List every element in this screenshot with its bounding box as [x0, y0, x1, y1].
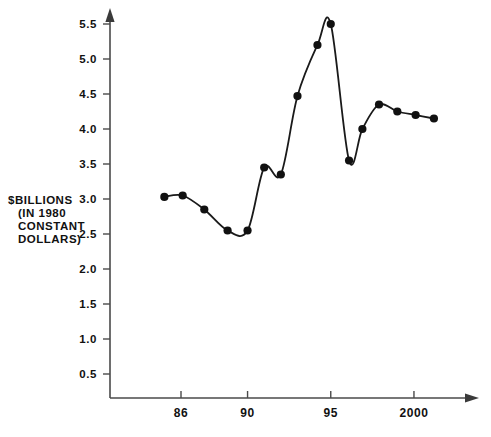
- data-point: [313, 41, 321, 49]
- data-point: [327, 20, 335, 28]
- data-series-line: [164, 17, 434, 236]
- data-point: [375, 100, 383, 108]
- data-point: [200, 205, 208, 213]
- data-series-points: [160, 20, 438, 235]
- y-axis-ticks: [103, 24, 110, 374]
- data-point: [260, 163, 268, 171]
- y-axis-tick-label-6: 3.5: [79, 158, 97, 170]
- data-point: [179, 191, 187, 199]
- data-point: [243, 226, 251, 234]
- data-point: [430, 114, 438, 122]
- x-axis-ticks: [181, 391, 414, 398]
- y-axis-tick-label-7: 4.0: [79, 123, 97, 135]
- x-axis-tick-label-3: 2000: [399, 406, 428, 420]
- x-axis-arrowhead: [465, 393, 479, 402]
- y-axis-title: $BILLIONS (IN 1980 CONSTANT DOLLARS): [8, 194, 85, 245]
- y-axis-title-line-1: (IN 1980: [18, 207, 66, 219]
- x-axis-group: 8690952000: [110, 391, 479, 420]
- y-axis-tick-label-1: 1.0: [79, 333, 97, 345]
- data-point: [393, 107, 401, 115]
- y-axis-group: 0.51.01.52.02.53.03.54.04.55.05.5: [79, 8, 114, 398]
- x-axis-tick-label-1: 90: [240, 406, 255, 420]
- data-point: [358, 125, 366, 133]
- y-axis-tick-labels: 0.51.01.52.02.53.03.54.04.55.05.5: [79, 18, 97, 380]
- y-axis-tick-label-3: 2.0: [79, 263, 97, 275]
- chart-container: 0.51.01.52.02.53.03.54.04.55.05.5 869095…: [0, 0, 491, 437]
- data-point: [223, 226, 231, 234]
- x-axis-tick-label-0: 86: [174, 406, 189, 420]
- y-axis-tick-label-10: 5.5: [79, 18, 97, 30]
- data-point: [160, 193, 168, 201]
- y-axis-arrowhead: [105, 8, 114, 22]
- y-axis-tick-label-0: 0.5: [79, 368, 97, 380]
- x-axis-tick-labels: 8690952000: [174, 406, 429, 420]
- line-chart: 0.51.01.52.02.53.03.54.04.55.05.5 869095…: [0, 0, 491, 437]
- data-point: [293, 92, 301, 100]
- data-point: [277, 170, 285, 178]
- x-axis-tick-label-2: 95: [323, 406, 338, 420]
- y-axis-title-line-3: DOLLARS): [18, 233, 81, 245]
- y-axis-tick-label-9: 5.0: [79, 53, 97, 65]
- data-point: [345, 156, 353, 164]
- y-axis-tick-label-8: 4.5: [79, 88, 97, 100]
- y-axis-tick-label-5: 3.0: [79, 193, 97, 205]
- y-axis-tick-label-2: 1.5: [79, 298, 97, 310]
- y-axis-title-line-0: $BILLIONS: [8, 194, 73, 206]
- y-axis-title-line-2: CONSTANT: [18, 220, 85, 232]
- data-point: [412, 111, 420, 119]
